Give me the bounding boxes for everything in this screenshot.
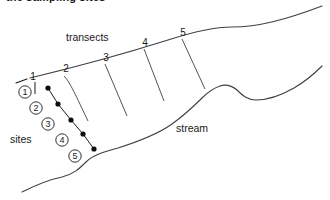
- stream-transect-diagram: the sampling sites 1 2 3 4 5: [0, 0, 330, 200]
- transect-label-2: 2: [63, 63, 69, 74]
- site-label-4: 4: [59, 135, 64, 145]
- site-chain-group: [45, 85, 96, 151]
- site-marker-3: 3: [42, 118, 54, 130]
- site-dot-4: [80, 131, 85, 136]
- site-dot-3: [68, 117, 73, 122]
- upper-bank-dash: [16, 79, 27, 83]
- transect-label-5: 5: [180, 27, 186, 38]
- site-label-5: 5: [72, 151, 77, 161]
- transect-line-4: [144, 49, 164, 101]
- site-marker-5: 5: [69, 150, 81, 162]
- transect-line-3: [105, 64, 127, 116]
- lower-bank-line: [22, 66, 322, 192]
- site-marker-1: 1: [19, 86, 31, 98]
- site-label-2: 2: [33, 103, 38, 113]
- upper-bank-group: [16, 6, 322, 83]
- transect-label-3: 3: [103, 52, 109, 63]
- lower-bank-group: [22, 66, 322, 192]
- transect-lines-group: [35, 39, 205, 121]
- transect-label-4: 4: [142, 37, 148, 48]
- site-label-1: 1: [22, 87, 27, 97]
- site-dot-1: [45, 85, 50, 90]
- sites-label: sites: [10, 133, 32, 145]
- transect-line-5: [182, 39, 205, 89]
- transect-label-1: 1: [30, 71, 36, 82]
- word-labels-group: transects stream sites: [10, 31, 208, 145]
- site-marker-4: 4: [56, 134, 68, 146]
- diagram-canvas: 1 2 3 4 5 1 2 3: [0, 0, 330, 200]
- site-label-3: 3: [45, 119, 50, 129]
- site-marker-2: 2: [30, 102, 42, 114]
- site-labels-group: 1 2 3 4 5: [19, 86, 81, 162]
- transects-label: transects: [66, 31, 109, 43]
- site-dot-5: [91, 146, 96, 151]
- site-dot-2: [55, 101, 60, 106]
- stream-label: stream: [176, 122, 208, 134]
- transect-line-2: [64, 76, 88, 121]
